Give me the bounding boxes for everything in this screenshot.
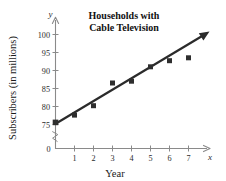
- y-tick-label-80: 80: [42, 103, 50, 112]
- x-tick-label-1: 1: [72, 154, 76, 163]
- y-tick-label-85: 85: [42, 85, 50, 94]
- x-tick-label-5: 5: [148, 154, 152, 163]
- y-tick-label-100: 100: [38, 31, 50, 40]
- x-axis-title: Year: [105, 168, 125, 179]
- y-axis-break-icon: [52, 132, 58, 142]
- data-point-3: [110, 81, 115, 86]
- data-point-0: [53, 120, 59, 126]
- scatter-plot-figure: Households with Cable Television y 100 9…: [0, 0, 226, 181]
- x-axis-variable-label: x: [207, 152, 212, 162]
- y-tick-label-90: 90: [42, 67, 50, 76]
- x-tick-label-2: 2: [91, 154, 95, 163]
- chart-title-line-2: Cable Television: [89, 22, 159, 33]
- data-point-2: [91, 103, 96, 108]
- chart-container: Households with Cable Television y 100 9…: [0, 0, 226, 181]
- y-axis-variable-label: y: [48, 9, 53, 19]
- data-point-1: [72, 113, 77, 118]
- data-point-6: [167, 58, 172, 63]
- x-tick-label-3: 3: [110, 154, 114, 163]
- data-points-group: [53, 55, 191, 125]
- data-point-7: [186, 55, 191, 60]
- x-tick-label-6: 6: [167, 154, 171, 163]
- chart-title-line-1: Households with: [89, 10, 160, 21]
- data-point-4: [129, 79, 134, 84]
- x-tick-label-4: 4: [129, 154, 133, 163]
- chart-title: Households with Cable Television: [89, 10, 160, 33]
- y-tick-label-75: 75: [42, 121, 50, 130]
- x-axis-tick-labels: 1 2 3 4 5 6 7: [72, 154, 190, 163]
- trend-line-group: [56, 32, 210, 124]
- x-tick-label-7: 7: [186, 154, 190, 163]
- y-tick-label-95: 95: [42, 49, 50, 58]
- axis-origin-label: 0: [46, 145, 50, 154]
- data-point-5: [148, 64, 153, 69]
- y-axis-title: Subscribers (in millions): [7, 36, 19, 140]
- y-axis-tick-labels: 100 95 90 85 80 75: [38, 31, 50, 130]
